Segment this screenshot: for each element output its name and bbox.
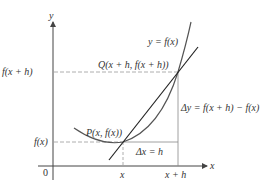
- y-tick-fxh: f(x + h): [2, 66, 33, 78]
- x-tick-xh: x + h: [164, 169, 186, 180]
- dx-label: Δx = h: [135, 146, 163, 157]
- secant-diagram: y x 0 f(x + h) f(x) x x + h y = f(x) Q(x…: [0, 0, 276, 190]
- curve-label: y = f(x): [147, 36, 179, 48]
- point-q-label: Q(x + h, f(x + h)): [98, 59, 169, 71]
- origin-label: 0: [43, 167, 48, 178]
- y-tick-fx: f(x): [34, 136, 49, 148]
- y-axis-label: y: [48, 10, 54, 21]
- x-axis-label: x: [209, 160, 215, 171]
- point-p-label: P(x, f(x)): [85, 127, 123, 139]
- x-tick-x: x: [119, 169, 125, 180]
- dy-label: Δy = f(x + h) − f(x): [180, 102, 260, 114]
